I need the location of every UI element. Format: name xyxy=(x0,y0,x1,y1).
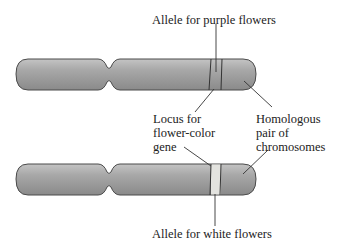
label-locus-line2: flower-color xyxy=(153,126,215,140)
label-locus-line1: Locus for xyxy=(153,112,201,126)
label-homologous-line3: chromosomes xyxy=(256,140,325,154)
label-homologous-line1: Homologous xyxy=(256,112,321,126)
leader-homologous-top xyxy=(244,81,272,107)
white-allele-band xyxy=(211,165,221,195)
label-homologous-line2: pair of xyxy=(256,126,289,140)
chromosome-bottom xyxy=(16,164,256,195)
label-allele-purple: Allele for purple flowers xyxy=(152,13,276,27)
leader-locus-bottom xyxy=(184,147,211,166)
label-allele-white: Allele for white flowers xyxy=(152,227,272,241)
leader-locus-top xyxy=(195,89,214,112)
chromosome-top xyxy=(16,59,256,90)
label-locus-line3: gene xyxy=(153,140,177,154)
